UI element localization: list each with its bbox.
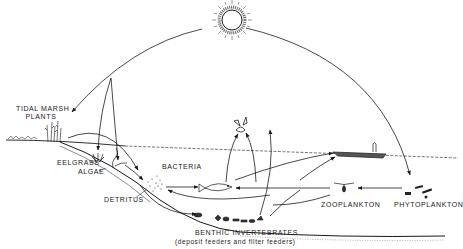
benthic-invertebrates-icon	[194, 213, 263, 223]
label-tidal-marsh-plants: TIDAL MARSH PLANTS	[16, 105, 66, 121]
label-benthic-subtitle: (deposit feeders and filter feeders)	[175, 238, 296, 246]
bird-icon	[234, 117, 247, 132]
sun-icon	[212, 0, 252, 40]
label-algae: ALGAE	[78, 168, 104, 176]
label-phytoplankton: PHYTOPLANKTON	[394, 201, 463, 209]
label-zooplankton: ZOOPLANKTON	[321, 201, 380, 209]
label-tidal-marsh: TIDAL MARSH	[16, 105, 66, 113]
label-bacteria: BACTERIA	[162, 163, 202, 171]
detritus-bacteria-icon	[145, 175, 162, 191]
zooplankton-icon	[334, 183, 354, 192]
marsh-ground	[6, 140, 125, 146]
fish-icon	[199, 184, 232, 192]
label-eelgrass: EELGRASS	[57, 159, 100, 167]
label-plants: PLANTS	[16, 113, 66, 121]
label-detritus: DETRITUS	[104, 196, 144, 204]
water-surface	[125, 146, 458, 158]
tidal-marsh-plants-icon	[45, 121, 61, 142]
phytoplankton-icon	[405, 185, 432, 199]
fisherman-boat-icon	[333, 143, 386, 159]
label-benthic-invertebrates: BENTHIC INVERTEBRATES	[195, 229, 298, 237]
